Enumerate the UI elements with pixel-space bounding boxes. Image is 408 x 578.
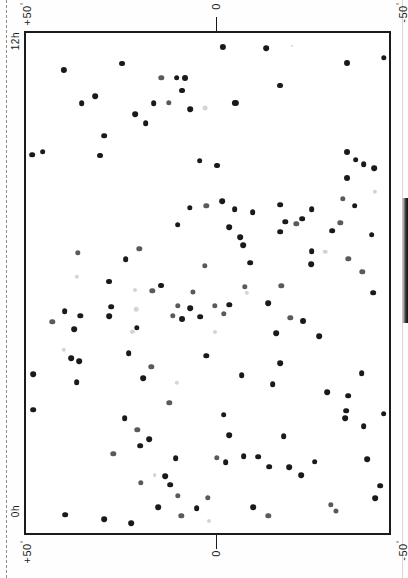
scatter-point (40, 149, 46, 155)
scatter-point (138, 480, 143, 485)
scatter-point (213, 330, 217, 334)
scatter-point (187, 106, 193, 112)
scatter-point (132, 112, 138, 118)
scatter-point (77, 358, 83, 364)
axis-label-12h: 12h (10, 32, 21, 50)
scatter-point (174, 381, 178, 385)
scatter-point (150, 288, 155, 293)
scatter-point (309, 206, 315, 212)
scatter-point (245, 291, 249, 295)
scatter-point (373, 190, 377, 194)
scatter-point (298, 472, 304, 478)
scatter-point (61, 66, 67, 72)
scatter-plot-frame (24, 31, 391, 535)
scatter-point (309, 248, 315, 254)
scatter-point (119, 61, 125, 67)
scatter-point (359, 370, 365, 376)
axis-label-top-left: +50° (20, 2, 33, 25)
scatter-point (174, 75, 180, 81)
scatter-point (62, 308, 68, 314)
scatter-point (202, 263, 207, 268)
scatter-point (204, 203, 209, 208)
scatter-point (334, 508, 339, 513)
scatter-point (255, 454, 261, 460)
axis-tick-top-center (216, 17, 217, 31)
scatter-point (123, 256, 129, 262)
scatter-point (175, 303, 180, 308)
scatter-point (266, 464, 272, 470)
scatter-point (340, 196, 345, 201)
scatter-point (263, 45, 269, 51)
scatter-point (156, 504, 162, 510)
scatter-point (108, 304, 114, 310)
scatter-point (74, 379, 80, 385)
scatter-point (299, 216, 305, 222)
scatter-point (312, 459, 318, 465)
scatter-point (220, 198, 226, 204)
axis-label-bottom-center: 0 (210, 550, 222, 557)
scatter-point (250, 504, 256, 510)
scatter-point (372, 495, 378, 501)
scatter-point (359, 269, 364, 274)
scatter-point (197, 158, 203, 164)
scatter-point (203, 106, 208, 111)
scatter-point (179, 513, 184, 518)
scatter-point (240, 242, 246, 248)
scatter-points-layer (26, 33, 389, 533)
scatter-point (62, 512, 68, 518)
scatter-point (92, 93, 98, 99)
scatter-point (179, 88, 185, 94)
scatter-point (223, 459, 229, 465)
scatter-point (277, 360, 283, 366)
scatter-point (270, 381, 276, 387)
scatter-point (30, 371, 36, 377)
scatter-point (167, 482, 173, 488)
scatter-point (344, 149, 350, 155)
scatter-point (62, 347, 66, 351)
scatter-point (130, 329, 134, 333)
scatter-point (151, 100, 157, 106)
scatter-point (194, 505, 200, 511)
scatter-point (153, 473, 157, 477)
scatter-point (78, 313, 83, 318)
scatter-point (242, 284, 247, 289)
scatter-point (346, 256, 351, 261)
axis-label-bottom-left: +50° (20, 540, 33, 563)
scatter-point (197, 314, 203, 320)
scatter-point (248, 260, 254, 266)
scatter-point (97, 153, 103, 159)
scatter-point (68, 355, 74, 361)
scatter-point (239, 372, 245, 378)
scatter-point (133, 288, 137, 292)
scatter-point (190, 289, 195, 294)
scatter-point (277, 202, 283, 208)
scatter-point (175, 493, 180, 498)
scatter-point (226, 224, 232, 230)
scatter-point (128, 520, 134, 526)
scatter-point (281, 433, 287, 439)
scatter-point (227, 302, 232, 307)
scatter-point (286, 464, 292, 470)
scatter-point (158, 283, 164, 289)
scatter-point (214, 163, 220, 169)
scatter-point (187, 305, 193, 311)
scatter-point (237, 234, 243, 240)
scatter-point (30, 407, 36, 413)
scatter-point (134, 325, 139, 330)
scan-edge-artifact (402, 198, 408, 323)
scatter-point (71, 326, 77, 332)
scatter-point (49, 319, 54, 324)
scatter-point (377, 483, 383, 489)
scatter-point (324, 389, 330, 395)
axis-label-0h: 0h (10, 505, 21, 517)
scatter-point (101, 516, 107, 522)
scatter-point (79, 101, 85, 107)
scatter-point (277, 229, 283, 235)
scatter-point (167, 400, 172, 405)
scatter-point (353, 157, 359, 163)
scatter-point (308, 261, 314, 267)
scatter-point (107, 313, 113, 319)
scatter-point (343, 408, 349, 414)
scatter-point (328, 502, 333, 507)
scatter-point (214, 455, 219, 460)
